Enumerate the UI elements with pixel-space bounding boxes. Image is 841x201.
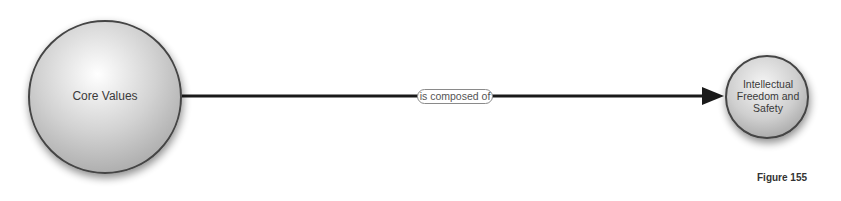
edge-label: is composed of: [417, 89, 493, 104]
figure-caption: Figure 155: [757, 172, 807, 183]
node-label-intellectual-freedom: Intellectual Freedom and Safety: [732, 78, 804, 114]
arrowhead-icon: [702, 87, 724, 105]
node-label-core-values: Core Values: [45, 89, 165, 103]
